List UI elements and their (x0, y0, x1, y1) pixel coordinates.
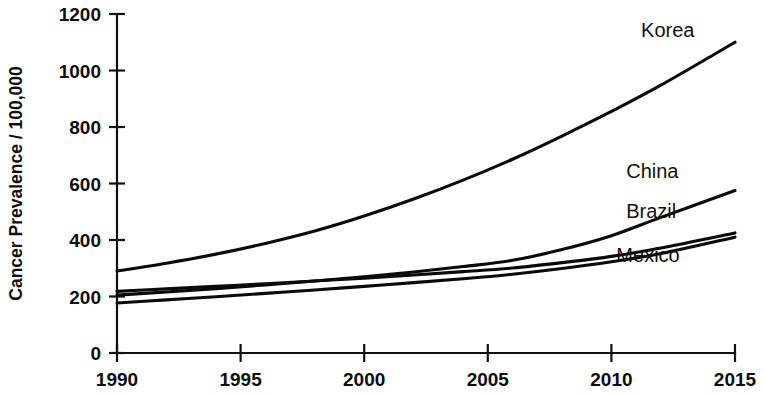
series-line-korea (117, 42, 735, 271)
x-axis-ticks: 199019952000200520102015 (96, 344, 757, 390)
x-tick-label: 2000 (343, 369, 385, 390)
series-label-mexico: Mexico (616, 244, 679, 266)
y-tick-label: 800 (69, 117, 101, 138)
y-axis-title: Cancer Prevalence / 100,000 (6, 66, 26, 301)
series-label-brazil: Brazil (626, 200, 676, 222)
axes (117, 14, 735, 353)
x-tick-label: 1995 (219, 369, 262, 390)
y-tick-label: 400 (69, 230, 101, 251)
y-axis-ticks: 020040060080010001200 (59, 4, 125, 364)
series-label-korea: Korea (641, 19, 695, 41)
x-tick-label: 2005 (467, 369, 510, 390)
line-chart: 020040060080010001200 199019952000200520… (0, 0, 763, 395)
x-tick-label: 2015 (714, 369, 757, 390)
chart-container: 020040060080010001200 199019952000200520… (0, 0, 763, 395)
y-tick-label: 1200 (59, 4, 101, 25)
y-tick-label: 200 (69, 287, 101, 308)
x-tick-label: 2010 (590, 369, 632, 390)
x-tick-label: 1990 (96, 369, 138, 390)
y-tick-label: 0 (90, 343, 101, 364)
series-label-china: China (626, 160, 679, 182)
y-tick-label: 1000 (59, 61, 101, 82)
y-tick-label: 600 (69, 174, 101, 195)
